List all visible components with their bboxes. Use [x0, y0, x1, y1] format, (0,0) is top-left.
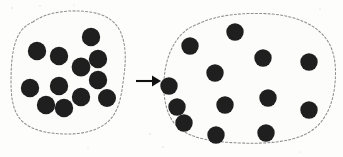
scan-speck — [73, 4, 74, 5]
particle — [89, 50, 107, 68]
scan-speck — [149, 133, 151, 135]
particle — [257, 124, 274, 141]
particle — [50, 47, 68, 65]
particle — [98, 89, 116, 107]
particle — [300, 53, 317, 70]
particle — [216, 96, 233, 113]
particle — [37, 96, 55, 114]
particle — [82, 28, 100, 46]
scan-speck — [299, 151, 300, 152]
particle — [72, 88, 90, 106]
particle — [28, 42, 46, 60]
particle — [72, 58, 91, 77]
particle — [55, 99, 73, 117]
dense-particle-region — [11, 11, 125, 134]
scan-speck — [39, 5, 40, 6]
particle — [89, 71, 107, 89]
particle — [168, 98, 185, 115]
scan-speck — [319, 8, 320, 9]
diagram-canvas — [0, 0, 343, 157]
particle — [254, 49, 271, 66]
particle — [50, 77, 68, 95]
particle — [160, 77, 177, 94]
scan-speck — [11, 7, 13, 9]
particle — [226, 23, 243, 40]
particle — [300, 101, 317, 118]
particle — [181, 37, 198, 54]
scan-speck — [162, 146, 163, 147]
particle — [259, 89, 276, 106]
particle — [206, 64, 223, 81]
sparse-particle-region — [160, 13, 335, 143]
diagram-svg — [0, 0, 343, 157]
particle — [207, 126, 224, 143]
particle — [175, 114, 192, 131]
scan-speck — [87, 147, 88, 148]
particle — [21, 79, 39, 97]
